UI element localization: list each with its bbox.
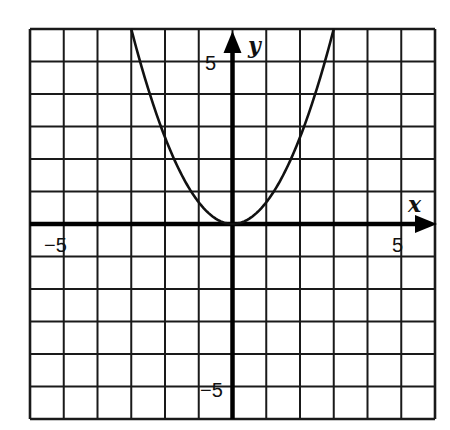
- y-tick-label-5: 5: [205, 52, 216, 74]
- y-tick-label-neg5: −5: [200, 379, 223, 401]
- x-tick-label-neg5: −5: [44, 234, 67, 256]
- coordinate-plane: −5 5 5 −5 y x: [0, 0, 450, 430]
- y-axis-label: y: [247, 32, 263, 58]
- y-axis-arrow-icon: [224, 31, 242, 53]
- x-tick-label-5: 5: [392, 234, 403, 256]
- x-axis-label: x: [407, 191, 422, 217]
